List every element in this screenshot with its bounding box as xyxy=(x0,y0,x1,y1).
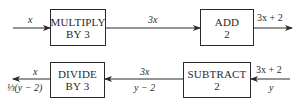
bottom-mid-label-top: 3x xyxy=(140,66,149,77)
add-2-box: ADD 2 xyxy=(200,9,254,46)
add-box-line2: 2 xyxy=(224,28,230,40)
top-mid-label: 3x xyxy=(148,14,157,25)
multiply-box-line1: MULTIPLY xyxy=(50,16,105,28)
subtract-box-line1: SUBTRACT xyxy=(187,68,246,80)
bottom-output-label-bottom: ⅓(y − 2) xyxy=(7,82,42,93)
multiply-box-line2: BY 3 xyxy=(66,28,90,40)
bottom-input-label-top: 3x + 2 xyxy=(256,64,282,75)
multiply-by-3-box: MULTIPLY BY 3 xyxy=(50,9,106,46)
bottom-output-label-top: x xyxy=(33,66,37,77)
add-box-line1: ADD xyxy=(215,16,239,28)
divide-box-line2: BY 3 xyxy=(66,80,90,92)
divide-box-line1: DIVIDE xyxy=(58,68,97,80)
subtract-box-line2: 2 xyxy=(214,80,220,92)
divide-by-3-box: DIVIDE BY 3 xyxy=(50,62,105,98)
bottom-input-label-bottom: y xyxy=(269,82,273,93)
top-input-label: x xyxy=(28,14,32,25)
subtract-2-box: SUBTRACT 2 xyxy=(183,62,251,98)
bottom-mid-label-bottom: y − 2 xyxy=(134,82,155,93)
top-output-label: 3x + 2 xyxy=(257,12,283,23)
